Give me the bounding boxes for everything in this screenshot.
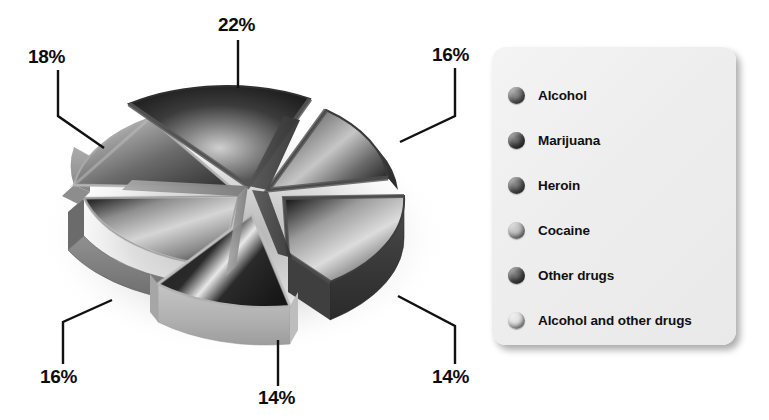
leader-line-16-top-right xyxy=(400,68,455,142)
legend-item-alcohol[interactable]: Alcohol xyxy=(508,73,726,118)
legend-bullet-icon xyxy=(508,87,525,104)
pie-chart-figure: 22% 18% 16% 16% 14% 14% Alcohol Marijuan… xyxy=(0,0,769,420)
legend-list: Alcohol Marijuana Heroin Cocaine Other d… xyxy=(492,47,736,345)
percent-label-heroin: 16% xyxy=(40,367,77,386)
legend-item-marijuana[interactable]: Marijuana xyxy=(508,118,726,163)
legend-item-cocaine[interactable]: Cocaine xyxy=(508,208,726,253)
legend-label: Other drugs xyxy=(538,268,614,283)
legend-item-heroin[interactable]: Heroin xyxy=(508,163,726,208)
legend-bullet-icon xyxy=(508,177,525,194)
legend-panel: Alcohol Marijuana Heroin Cocaine Other d… xyxy=(492,47,736,345)
legend-label: Heroin xyxy=(538,178,580,193)
legend-item-alcohol-and-other-drugs[interactable]: Alcohol and other drugs xyxy=(508,298,726,343)
pie-chart-area: 22% 18% 16% 16% 14% 14% xyxy=(0,0,490,420)
legend-label: Alcohol xyxy=(538,88,587,103)
percent-label-alcohol-and-other-drugs: 16% xyxy=(432,45,469,64)
percent-label-cocaine: 14% xyxy=(258,388,295,407)
legend-label: Alcohol and other drugs xyxy=(538,313,692,328)
pie-chart-graphic xyxy=(0,0,490,420)
legend-label: Marijuana xyxy=(538,133,600,148)
percent-label-marijuana: 18% xyxy=(28,47,65,66)
legend-bullet-icon xyxy=(508,312,525,329)
leader-line-18 xyxy=(58,70,104,148)
legend-bullet-icon xyxy=(508,222,525,239)
legend-bullet-icon xyxy=(508,132,525,149)
legend-bullet-icon xyxy=(508,267,525,284)
percent-label-other-drugs: 14% xyxy=(432,367,469,386)
legend-item-other-drugs[interactable]: Other drugs xyxy=(508,253,726,298)
percent-label-alcohol: 22% xyxy=(218,15,255,34)
legend-label: Cocaine xyxy=(538,223,590,238)
